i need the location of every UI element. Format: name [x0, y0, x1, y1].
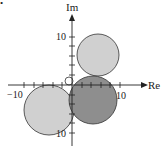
real-axis-label: Re	[148, 79, 160, 91]
corner-marker: •	[0, 0, 3, 8]
y-tick-label-neg: 10	[56, 128, 66, 139]
x-tick-label-pos: 10	[116, 90, 126, 101]
complex-plane-diagram: •	[0, 0, 165, 149]
x-tick-label-neg: −10	[7, 89, 23, 100]
imaginary-axis-label: Im	[66, 1, 79, 13]
real-axis-arrow-icon	[141, 82, 148, 88]
lower-left-circle	[24, 85, 74, 135]
y-tick-label-pos: 10	[56, 31, 66, 42]
upper-circle	[77, 34, 119, 76]
imaginary-axis-arrow-icon	[69, 14, 75, 21]
